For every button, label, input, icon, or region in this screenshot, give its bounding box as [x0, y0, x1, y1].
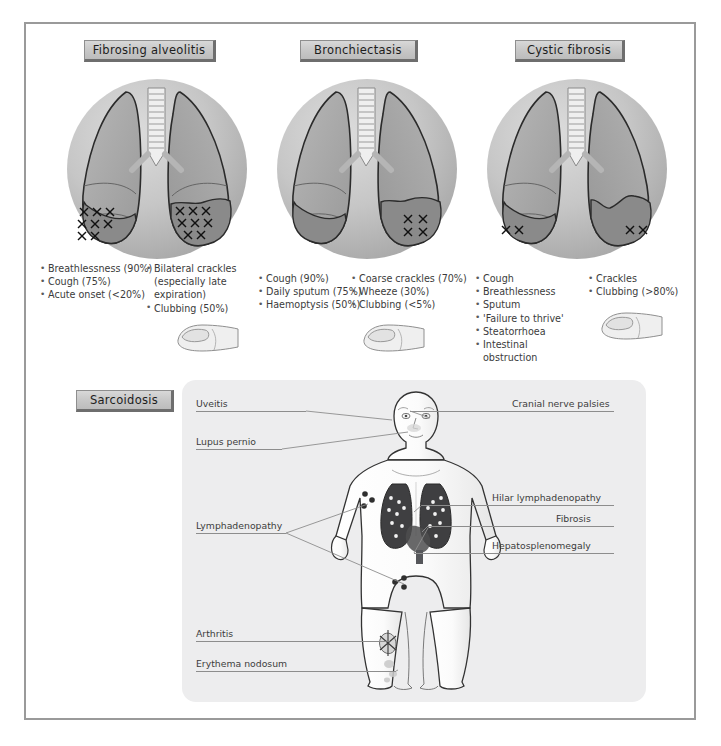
symptom-list-cystic-fibrosis-right: Crackles Clubbing (>80%)	[588, 272, 678, 298]
list-item: Crackles	[588, 272, 678, 285]
figure-frame: Fibrosing alveolitis	[24, 22, 696, 720]
list-item: Clubbing (50%)	[146, 302, 237, 315]
leader-line-fibrosis	[428, 526, 614, 527]
panel-title-sarcoidosis: Sarcoidosis	[76, 390, 174, 412]
list-item: Breathlessness	[475, 285, 564, 298]
leader-line-uveitis	[196, 411, 306, 412]
list-item: Haemoptysis (50%)	[258, 298, 362, 311]
clubbed-finger-fibrosing	[172, 320, 242, 358]
clubbed-finger-cystic-fibrosis	[596, 308, 666, 346]
sarcoidosis-panel: Uveitis Lupus pernio Lymphadenopathy Art…	[182, 380, 646, 702]
leader-line-hepatosplenomegaly	[414, 553, 614, 554]
sarcoid-label-cranial-nerve-palsies: Cranial nerve palsies	[512, 398, 610, 409]
symptom-list-cystic-fibrosis-left: Cough Breathlessness Sputum 'Failure to …	[475, 272, 564, 364]
figure-root: Fibrosing alveolitis	[0, 0, 721, 746]
panel-title-cystic-fibrosis: Cystic fibrosis	[515, 40, 625, 62]
panel-title-text: Sarcoidosis	[90, 393, 158, 407]
list-item: Intestinal	[475, 338, 564, 351]
list-item: Wheeze (30%)	[351, 285, 467, 298]
sarcoid-label-hepatosplenomegaly: Hepatosplenomegaly	[492, 540, 591, 551]
list-item: 'Failure to thrive'	[475, 312, 564, 325]
panel-title-bronchiectasis: Bronchiectasis	[300, 40, 418, 62]
clubbed-finger-bronchiectasis	[358, 320, 428, 358]
panel-title-text: Cystic fibrosis	[527, 43, 611, 57]
leader-line-cranial-nerve-palsies	[410, 411, 614, 412]
list-item: Cough (90%)	[258, 272, 362, 285]
symptom-list-fibrosing-right: Bilateral crackles (especially late expi…	[146, 262, 237, 315]
list-item: Coarse crackles (70%)	[351, 272, 467, 285]
sarcoid-label-arthritis: Arthritis	[196, 628, 233, 639]
list-item-continuation: expiration)	[146, 288, 237, 301]
list-item-continuation: obstruction	[475, 351, 564, 364]
symptom-list-fibrosing-left: Breathlessness (90%) Cough (75%) Acute o…	[40, 262, 152, 302]
list-item: Clubbing (>80%)	[588, 285, 678, 298]
leader-line-erythema-nodosum	[196, 671, 396, 672]
sarcoid-label-erythema-nodosum: Erythema nodosum	[196, 658, 287, 669]
sarcoid-label-lymphadenopathy: Lymphadenopathy	[196, 520, 282, 531]
leader-line-arthritis	[196, 641, 386, 642]
leader-line-lymphadenopathy	[196, 533, 286, 534]
sarcoid-label-fibrosis: Fibrosis	[556, 513, 591, 524]
symptom-list-bronchiectasis-right: Coarse crackles (70%) Wheeze (30%) Clubb…	[351, 272, 467, 312]
lung-diagram-cystic-fibrosis	[484, 74, 670, 264]
list-item: Acute onset (<20%)	[40, 288, 152, 301]
panel-title-text: Bronchiectasis	[314, 43, 402, 57]
lung-diagram-fibrosing-alveolitis	[64, 74, 250, 264]
leader-line-lupus-pernio	[196, 449, 282, 450]
panel-title-text: Fibrosing alveolitis	[93, 43, 205, 57]
sarcoid-label-hilar-lymphadenopathy: Hilar lymphadenopathy	[492, 492, 601, 503]
sarcoid-label-lupus-pernio: Lupus pernio	[196, 436, 256, 447]
list-item: Breathlessness (90%)	[40, 262, 152, 275]
list-item: Daily sputum (75%)	[258, 285, 362, 298]
list-item: Cough (75%)	[40, 275, 152, 288]
list-item: Bilateral crackles	[146, 262, 237, 275]
panel-title-fibrosing-alveolitis: Fibrosing alveolitis	[84, 40, 216, 62]
list-item: Cough	[475, 272, 564, 285]
leader-line-hilar-lymphadenopathy	[422, 505, 614, 506]
sarcoid-label-uveitis: Uveitis	[196, 398, 228, 409]
lung-diagram-bronchiectasis	[274, 74, 460, 264]
list-item: Sputum	[475, 298, 564, 311]
list-item-continuation: (especially late	[146, 275, 237, 288]
list-item: Clubbing (<5%)	[351, 298, 467, 311]
symptom-list-bronchiectasis-left: Cough (90%) Daily sputum (75%) Haemoptys…	[258, 272, 362, 312]
list-item: Steatorrhoea	[475, 325, 564, 338]
